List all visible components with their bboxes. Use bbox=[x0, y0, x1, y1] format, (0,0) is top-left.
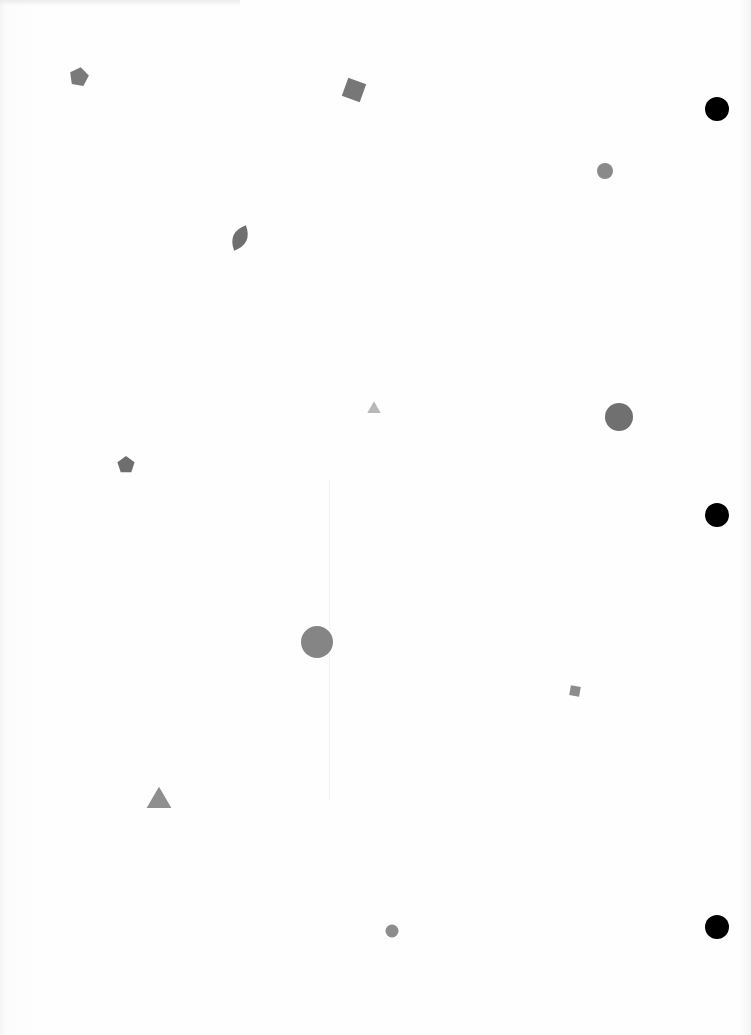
circle-shape bbox=[386, 925, 399, 938]
punch-hole bbox=[705, 915, 729, 939]
scanned-paper-sheet bbox=[0, 0, 751, 1035]
pentagon-shape bbox=[117, 456, 134, 472]
circle-shape bbox=[605, 403, 633, 431]
triangle-shape bbox=[367, 401, 380, 413]
shape-layer bbox=[0, 0, 751, 1035]
leaf-shape bbox=[228, 222, 253, 253]
punch-hole bbox=[705, 97, 729, 121]
square-shape bbox=[342, 78, 366, 102]
pentagon-shape bbox=[70, 67, 89, 86]
triangle-shape bbox=[147, 787, 172, 808]
punch-hole bbox=[705, 503, 729, 527]
circle-shape bbox=[597, 163, 613, 179]
textured-circle-shape bbox=[301, 626, 333, 658]
square-shape bbox=[569, 685, 581, 697]
